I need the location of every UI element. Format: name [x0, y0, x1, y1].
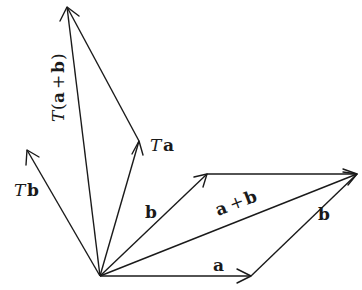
label-Ta: T a	[150, 135, 174, 155]
svg-text:b: b	[48, 61, 68, 73]
vector-T-a-plus-b	[60, 7, 100, 276]
svg-text:a: a	[48, 92, 68, 103]
vector-diagram: a b b a + b T a T b T ( a + b )	[0, 0, 362, 290]
vector-a	[100, 269, 251, 283]
label-Tb: T b	[14, 180, 39, 200]
svg-text:T: T	[14, 180, 27, 200]
label-b-shifted: b	[318, 204, 330, 224]
svg-text:T: T	[150, 135, 163, 155]
vector-b-shifted	[251, 174, 357, 276]
arrowhead-icon	[60, 7, 79, 21]
label-b: b	[145, 202, 157, 222]
svg-text:(: (	[48, 103, 68, 110]
svg-text:a: a	[163, 135, 174, 155]
svg-text:b: b	[27, 180, 39, 200]
vector-b	[100, 174, 207, 276]
label-a: a	[213, 255, 224, 275]
vector-Tb	[26, 150, 100, 276]
label-T-a-plus-b: T ( a + b )	[48, 53, 68, 122]
svg-text:): )	[48, 53, 68, 60]
svg-text:+: +	[48, 75, 68, 89]
vector-Tb-shifted	[67, 7, 139, 141]
label-a-plus-b: a + b	[212, 186, 259, 220]
